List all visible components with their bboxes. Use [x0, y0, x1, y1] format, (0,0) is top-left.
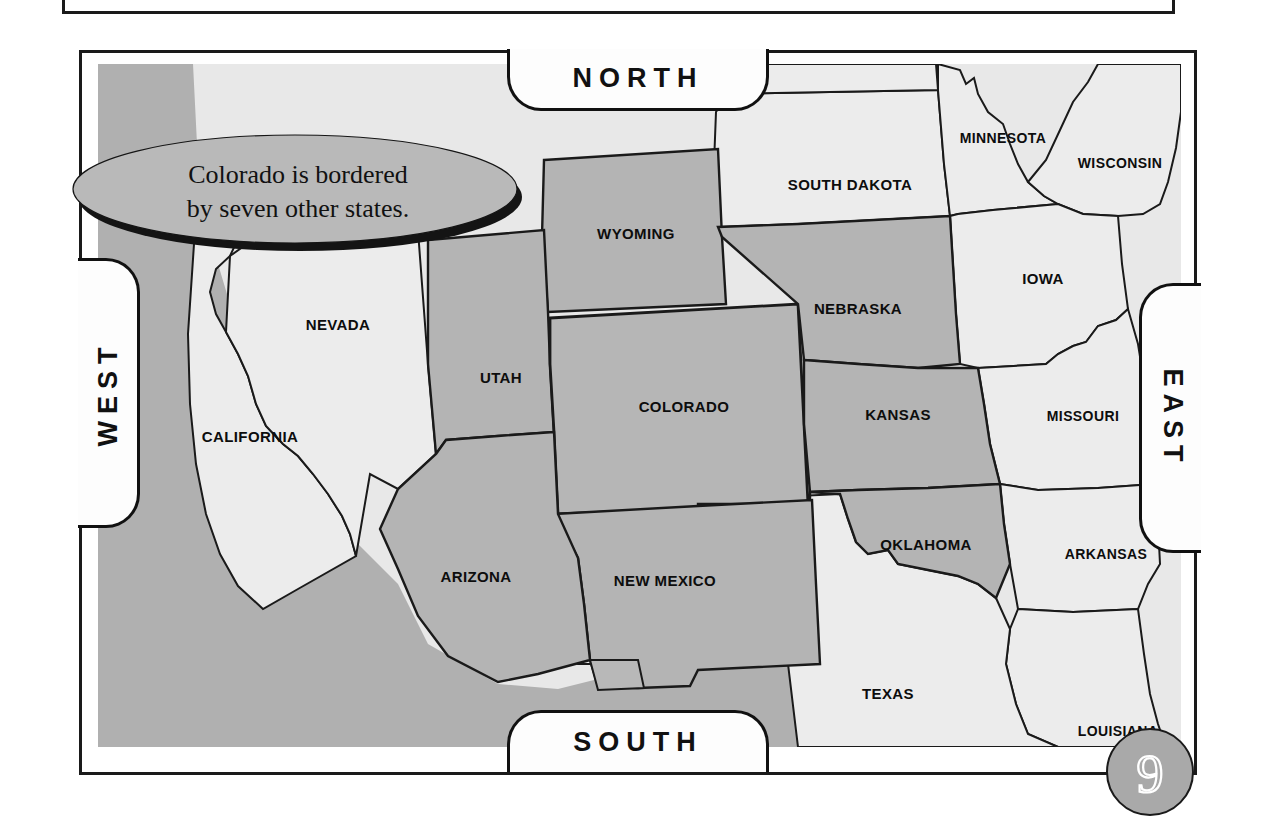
callout-body — [73, 135, 517, 243]
compass-tab-north: NORTH — [507, 49, 769, 111]
map-frame: COLORADO WYOMING NEBRASKA KANSAS OKLAHOM… — [79, 50, 1197, 775]
state-label-nebraska: NEBRASKA — [814, 300, 902, 317]
state-label-wyoming: WYOMING — [597, 225, 675, 242]
state-label-arizona: ARIZONA — [440, 568, 511, 585]
callout-svg: Colorado is bordered by seven other stat… — [60, 131, 525, 251]
state-label-wisconsin: WISCONSIN — [1078, 155, 1163, 171]
upper-panel-frame-edge — [62, 0, 1175, 14]
state-south-dakota[interactable] — [714, 90, 950, 227]
compass-label-east: EAST — [1156, 368, 1187, 468]
callout-line-2: by seven other states. — [187, 194, 409, 223]
state-label-arkansas: ARKANSAS — [1065, 546, 1148, 562]
state-label-utah: UTAH — [480, 369, 522, 386]
state-new-mexico-bootheel[interactable] — [590, 660, 644, 690]
compass-tab-west: WEST — [78, 258, 140, 528]
state-kansas[interactable] — [804, 360, 1000, 492]
state-label-nevada: NEVADA — [306, 316, 371, 333]
compass-label-south: SOUTH — [573, 727, 703, 758]
state-label-new-mexico: NEW MEXICO — [614, 572, 716, 589]
callout-line-1: Colorado is bordered — [188, 160, 408, 189]
compass-label-west: WEST — [92, 340, 123, 446]
compass-tab-east: EAST — [1139, 283, 1201, 553]
state-label-south-dakota: SOUTH DAKOTA — [788, 176, 913, 193]
state-label-oklahoma: OKLAHOMA — [880, 536, 972, 553]
callout-ellipse: Colorado is bordered by seven other stat… — [60, 131, 525, 251]
page-number-badge: 9 — [1105, 727, 1195, 817]
state-label-california: CALIFORNIA — [202, 428, 299, 445]
state-utah[interactable] — [428, 230, 554, 454]
page-badge-svg: 9 — [1105, 727, 1195, 817]
state-label-iowa: IOWA — [1022, 270, 1064, 287]
state-label-colorado: COLORADO — [639, 398, 730, 415]
compass-tab-south: SOUTH — [507, 710, 769, 772]
state-label-texas: TEXAS — [862, 685, 914, 702]
state-label-missouri: MISSOURI — [1047, 408, 1119, 424]
state-label-minnesota: MINNESOTA — [960, 130, 1047, 146]
compass-label-north: NORTH — [573, 63, 704, 94]
state-label-kansas: KANSAS — [865, 406, 931, 423]
page-number-text: 9 — [1137, 744, 1164, 804]
